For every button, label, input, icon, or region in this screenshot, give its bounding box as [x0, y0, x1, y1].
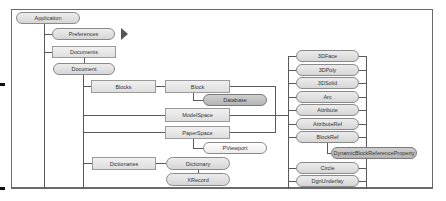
connector-preferences [44, 34, 52, 35]
node-entity-circle[interactable]: Circle [296, 162, 359, 174]
connector-entities-right-bracket [366, 56, 367, 189]
tick [288, 181, 296, 182]
node-entity-arc[interactable]: Arc [296, 91, 359, 103]
node-entity-attribute[interactable]: Attribute [296, 104, 359, 116]
connector-entities-left-bracket [288, 56, 289, 189]
tick [359, 97, 366, 98]
tick [288, 56, 296, 57]
connector-paperspace-right [230, 132, 275, 133]
connector-documents [44, 52, 52, 53]
node-application[interactable]: Application [16, 12, 80, 24]
node-database[interactable]: Database [203, 94, 267, 106]
node-dynamicblockreferenceproperty[interactable]: DynamicBlockReferenceProperty [331, 147, 417, 159]
node-paperspace[interactable]: PaperSpace [165, 126, 230, 139]
tick [288, 124, 296, 125]
node-dictionaries[interactable]: Dictionaries [92, 157, 156, 170]
node-document[interactable]: Document [53, 63, 115, 75]
page-margin-mark [0, 187, 5, 190]
connector-blocks-block [156, 86, 165, 87]
connector-paperspace [83, 132, 165, 133]
connector-block-database-h [193, 100, 203, 101]
node-documents[interactable]: Documents [52, 46, 116, 58]
connector-block-right [230, 86, 275, 87]
node-modelspace[interactable]: ModelSpace [165, 108, 230, 122]
connector-modelspace [83, 115, 165, 116]
connector-blockref-dynamic-v [327, 143, 328, 153]
tick [359, 83, 366, 84]
tick [288, 83, 296, 84]
node-entity-blockref[interactable]: BlockRef [296, 131, 359, 143]
node-pviewport[interactable]: PViewport [203, 142, 267, 154]
tick [288, 70, 296, 71]
tick [359, 168, 366, 169]
connector-block-paperspace-v [275, 86, 276, 133]
tick [288, 137, 296, 138]
node-entity-attributeref[interactable]: AttributeRef [296, 118, 359, 130]
tick [288, 97, 296, 98]
tick [288, 168, 296, 169]
connector-paperspace-pviewport-h [193, 148, 203, 149]
tick [359, 70, 366, 71]
tick [288, 110, 296, 111]
connector-dictionaries [83, 163, 92, 164]
connector-application-trunk [44, 24, 45, 189]
object-model-diagram: Application Preferences Documents Docume… [0, 0, 446, 201]
node-preferences[interactable]: Preferences [52, 28, 115, 40]
connector-blocks [83, 86, 91, 87]
node-xrecord[interactable]: XRecord [166, 173, 230, 186]
connector-dictionaries-dictionary [156, 163, 166, 164]
node-entity-3dsolid[interactable]: 3DSolid [296, 77, 359, 89]
tick [359, 56, 366, 57]
tick [359, 137, 366, 138]
connector-block-database-v [193, 93, 194, 100]
node-entity-dgnunderlay[interactable]: DgnUnderlay [296, 175, 359, 187]
node-entity-3dface[interactable]: 3DFace [296, 50, 359, 62]
tick [359, 181, 366, 182]
page-margin-mark [0, 83, 5, 86]
connector-paperspace-pviewport-v [193, 139, 194, 148]
connector-modelspace-entities [230, 115, 288, 116]
tick [359, 124, 366, 125]
triangle-right-icon [121, 28, 128, 40]
node-entity-3dpoly[interactable]: 3DPoly [296, 64, 359, 76]
node-dictionary[interactable]: Dictionary [166, 157, 230, 170]
node-blocks[interactable]: Blocks [91, 80, 156, 93]
node-block[interactable]: Block [165, 80, 230, 93]
tick [359, 110, 366, 111]
